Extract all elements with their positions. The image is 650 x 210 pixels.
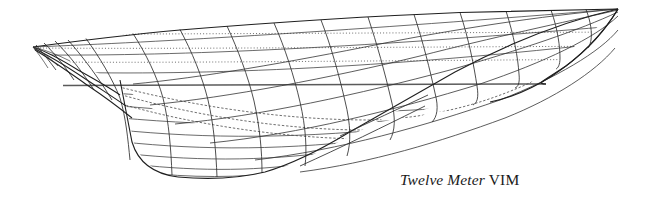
- sheer-line: [33, 9, 618, 47]
- load-waterline: [63, 84, 546, 86]
- aft-fin-detail: [300, 95, 428, 166]
- caption-roman-text: VIM: [489, 171, 519, 188]
- caption-italic-text: Twelve Meter: [400, 171, 485, 188]
- hull-lines-figure: Twelve Meter VIM: [0, 0, 650, 210]
- keel-outline: [120, 9, 618, 178]
- figure-caption: Twelve Meter VIM: [400, 171, 519, 189]
- hull-lines-drawing: [0, 0, 650, 210]
